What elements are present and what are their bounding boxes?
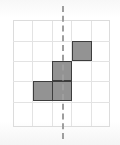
shape-square-bottom-left xyxy=(33,81,53,101)
dashed-vertical-line xyxy=(62,6,64,139)
grid-line-vertical-1 xyxy=(32,20,33,127)
grid-line-vertical-0 xyxy=(13,20,14,127)
figure-root xyxy=(0,0,120,145)
grid-line-vertical-4 xyxy=(91,20,92,127)
shape-square-top xyxy=(72,41,92,61)
grid-line-vertical-5 xyxy=(109,20,110,127)
